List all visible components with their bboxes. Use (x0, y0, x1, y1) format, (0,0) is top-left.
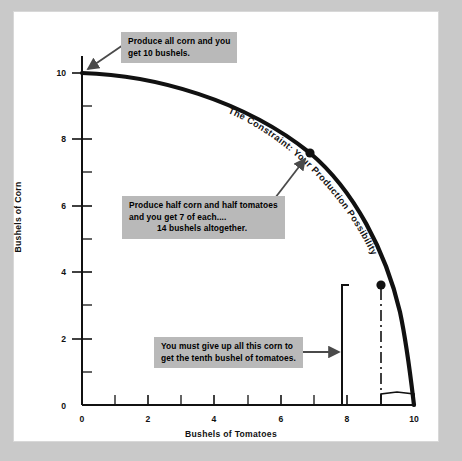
x-tick-0: 0 (80, 414, 85, 424)
y-tick-labels: 10 8 6 4 2 0 (56, 68, 66, 411)
y-tick-4: 4 (61, 267, 66, 277)
x-tick-4: 4 (212, 414, 217, 424)
x-axis-title: Bushels of Tomatoes (0, 429, 462, 439)
callout-all-corn-line1: Produce all corn and you (128, 36, 230, 46)
figure-panel: 10 8 6 4 2 0 0 2 4 6 8 10 (14, 12, 438, 441)
callout-half-line2: and you get 7 of each.... (129, 212, 226, 222)
point-half-and-half (305, 148, 314, 157)
x-tick-8: 8 (345, 414, 350, 424)
callout-giveup-line1: You must give up all this corn to (161, 341, 293, 351)
x-tick-labels: 0 2 4 6 8 10 (80, 414, 419, 424)
x-tick-2: 2 (146, 414, 151, 424)
y-tick-2: 2 (61, 334, 66, 344)
y-tick-0: 0 (61, 401, 66, 411)
callout-all-corn-line2: get 10 bushels. (128, 48, 190, 58)
callout-giveup-line2: get the tenth bushel of tomatoes. (161, 353, 296, 363)
y-tick-10: 10 (56, 68, 66, 78)
x-tick-6: 6 (279, 414, 284, 424)
callout-all-corn: Produce all corn and you get 10 bushels. (121, 32, 237, 63)
point-ninth-bushel (376, 280, 385, 289)
corn-sacrificed-bracket (342, 285, 349, 405)
callout-half-line1: Produce half corn and half tomatoes (129, 200, 278, 210)
x-axis-ticks (115, 395, 414, 405)
callout-half-line3: 14 bushels altogether. (129, 223, 278, 235)
x-tick-10: 10 (409, 414, 419, 424)
callout-give-up-corn: You must give up all this corn to get th… (154, 337, 303, 368)
y-tick-8: 8 (61, 134, 66, 144)
y-axis-title: Bushels of Corn (13, 167, 23, 267)
tenth-bushel-brace (381, 392, 414, 400)
y-tick-6: 6 (61, 201, 66, 211)
callout-half-and-half: Produce half corn and half tomatoes and … (122, 196, 285, 239)
